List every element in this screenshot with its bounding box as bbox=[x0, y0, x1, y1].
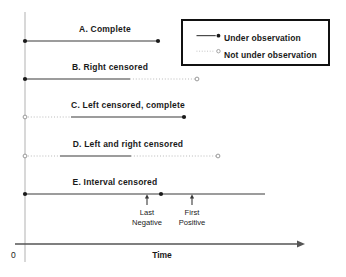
marker-e-filled-dot-0 bbox=[23, 192, 27, 196]
series-label-b: B. Right censored bbox=[72, 63, 148, 72]
marker-c-filled-dot-1 bbox=[182, 115, 186, 119]
annotation-label-first-positive: FirstPositive bbox=[179, 208, 206, 227]
marker-d-hollow-dot-1 bbox=[216, 154, 220, 158]
marker-a-filled-dot-0 bbox=[23, 39, 27, 43]
x-axis-origin-label: 0 bbox=[11, 251, 16, 260]
marker-b-filled-dot-0 bbox=[23, 77, 27, 81]
marker-a-filled-dot-1 bbox=[156, 39, 160, 43]
annotation-label-last-negative-line1: Last bbox=[132, 208, 162, 218]
x-axis-title: Time bbox=[152, 251, 172, 260]
series-label-d: D. Left and right censored bbox=[73, 140, 184, 149]
marker-e-filled-dot-1 bbox=[159, 192, 163, 196]
annotation-label-last-negative: LastNegative bbox=[132, 208, 162, 227]
series-label-a: A. Complete bbox=[79, 25, 131, 34]
x-axis-arrowhead bbox=[297, 241, 305, 248]
legend-item-under-observation: Under observation bbox=[224, 34, 301, 43]
censoring-timeline-figure: A. CompleteB. Right censoredC. Left cens… bbox=[0, 0, 346, 277]
annotation-arrow-head-last-negative bbox=[145, 194, 149, 198]
annotation-arrow-head-first-positive bbox=[190, 194, 194, 198]
legend-marker-hollow-dot bbox=[217, 49, 220, 52]
marker-d-hollow-dot-0 bbox=[23, 154, 27, 158]
legend-marker-filled-dot bbox=[217, 34, 221, 38]
annotation-label-first-positive-line1: First bbox=[179, 208, 206, 218]
legend-item-not-under-observation: Not under observation bbox=[224, 51, 317, 60]
series-label-c: C. Left censored, complete bbox=[71, 101, 185, 110]
annotation-label-first-positive-line2: Positive bbox=[179, 218, 206, 228]
series-label-e: E. Interval censored bbox=[73, 178, 158, 187]
marker-b-hollow-dot-1 bbox=[195, 77, 199, 81]
legend: Under observation Not under observation bbox=[181, 19, 330, 66]
marker-c-hollow-dot-0 bbox=[23, 115, 27, 119]
annotation-label-last-negative-line2: Negative bbox=[132, 218, 162, 228]
